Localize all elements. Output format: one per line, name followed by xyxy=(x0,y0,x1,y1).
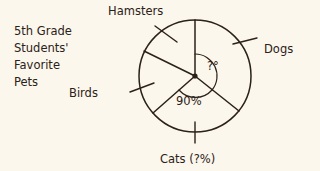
title-line-1: 5th Grade xyxy=(14,24,72,38)
title-line-3: Favorite xyxy=(14,58,60,72)
title-line-4: Pets xyxy=(14,75,38,89)
slice-label-hamsters: Hamsters xyxy=(108,4,163,18)
pie-chart-svg: 5th Grade Students' Favorite Pets ?° 90% xyxy=(0,0,320,171)
slice-label-birds: Birds xyxy=(69,86,98,100)
slice-label-cats: Cats (?%) xyxy=(160,152,215,166)
slice-label-dogs: Dogs xyxy=(264,42,293,56)
pie-center-point xyxy=(192,73,197,78)
unknown-angle-label: ?° xyxy=(207,59,219,73)
title-line-2: Students' xyxy=(14,41,68,55)
cats-percent-label: 90% xyxy=(176,94,202,108)
pie-chart-figure: 5th Grade Students' Favorite Pets ?° 90% xyxy=(0,0,320,171)
